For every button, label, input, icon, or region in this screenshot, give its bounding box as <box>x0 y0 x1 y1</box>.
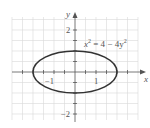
x-tick-label-neg1: −1 <box>45 76 54 86</box>
equation-label: x2 = 4 − 4y2 <box>83 38 127 49</box>
y-tick-label-2: 2 <box>66 25 70 35</box>
ellipse-chart: y x 2 −2 −1 1 x2 = 4 − 4y2 <box>0 0 150 128</box>
y-tick-label-neg2: −2 <box>61 109 70 119</box>
x-axis <box>12 70 146 75</box>
x-axis-label: x <box>143 74 148 84</box>
y-axis-label: y <box>65 9 70 19</box>
x-tick-label-1: 1 <box>94 76 98 86</box>
y-axis <box>73 12 78 122</box>
y-axis-arrow-icon <box>73 12 78 18</box>
